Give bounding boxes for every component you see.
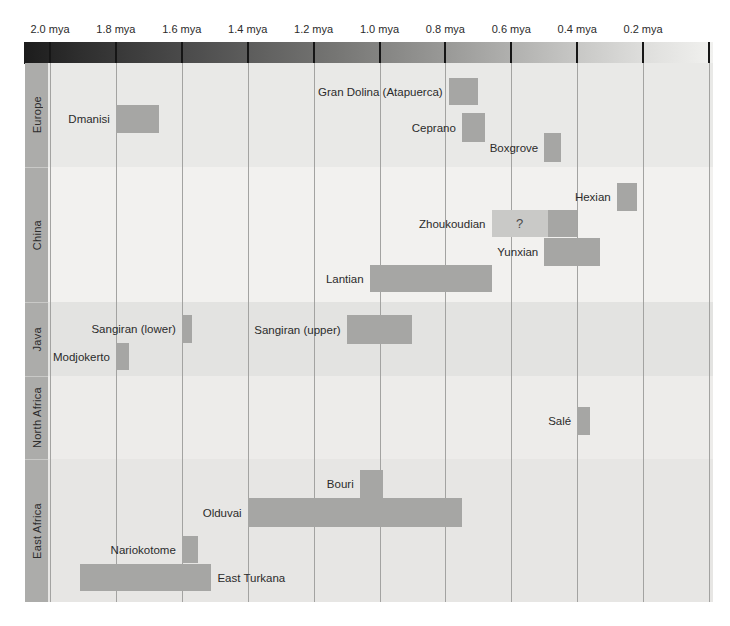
site-bar-bouri xyxy=(360,470,383,498)
region-label-china: China xyxy=(31,220,43,250)
region-sidebar-cell-java: Java xyxy=(25,302,48,376)
axis-tick-label-1-8: 1.8 mya xyxy=(96,23,135,35)
axis-tick-label-0-6: 0.6 mya xyxy=(492,23,531,35)
site-bar-lantian xyxy=(370,265,492,292)
site-label-bouri: Bouri xyxy=(327,478,354,490)
site-label-sangiran-upper: Sangiran (upper) xyxy=(254,324,340,336)
region-band-north-africa xyxy=(48,376,713,459)
region-label-java: Java xyxy=(31,327,43,351)
site-label-lantian: Lantian xyxy=(326,273,364,285)
gridline xyxy=(643,63,644,602)
axis-tick-label-1-4: 1.4 mya xyxy=(228,23,267,35)
time-gradient-bar xyxy=(24,42,713,64)
site-label-olduvai: Olduvai xyxy=(203,507,242,519)
axis-tick-mark xyxy=(181,42,183,64)
axis-tick-label-1: 1.0 mya xyxy=(360,23,399,35)
site-bar-uncertain-zhoukoudian: ? xyxy=(492,210,548,237)
site-bar-boxgrove xyxy=(544,133,560,162)
site-label-sangiran-lower: Sangiran (lower) xyxy=(91,323,175,335)
region-label-europe: Europe xyxy=(31,96,43,133)
axis-tick-mark xyxy=(49,42,51,64)
site-bar-olduvai xyxy=(248,498,462,527)
uncertainty-question-mark: ? xyxy=(516,216,523,231)
axis-tick-mark xyxy=(510,42,512,64)
hominid-fossil-sites-timeline-figure: 2.0 mya1.8 mya1.6 mya1.4 mya1.2 mya1.0 m… xyxy=(0,0,730,626)
site-label-modjokerto: Modjokerto xyxy=(53,351,110,363)
region-label-east-africa: East Africa xyxy=(31,503,43,559)
site-label-yunxian: Yunxian xyxy=(497,246,538,258)
axis-tick-mark xyxy=(444,42,446,64)
axis-tick-label-0-8: 0.8 mya xyxy=(426,23,465,35)
site-bar-gran-dolina-atapuerca xyxy=(449,78,479,105)
site-bar-sangiran-upper xyxy=(347,315,413,344)
axis-tick-label-0-4: 0.4 mya xyxy=(558,23,597,35)
site-label-sal: Salé xyxy=(548,415,571,427)
axis-tick-mark xyxy=(247,42,249,64)
site-bar-modjokerto xyxy=(116,343,129,370)
site-bar-ceprano xyxy=(462,113,485,142)
region-sidebar-cell-europe: Europe xyxy=(25,63,48,167)
gridline xyxy=(709,63,710,602)
site-label-boxgrove: Boxgrove xyxy=(490,142,539,154)
gridline xyxy=(50,63,51,602)
axis-tick-mark xyxy=(708,42,710,64)
axis-tick-mark xyxy=(115,42,117,64)
site-bar-dmanisi xyxy=(116,105,159,133)
region-sidebar-cell-china: China xyxy=(25,167,48,302)
region-sidebar-cell-north-africa: North Africa xyxy=(25,376,48,459)
site-label-dmanisi: Dmanisi xyxy=(68,113,110,125)
axis-tick-mark xyxy=(313,42,315,64)
region-label-north-africa: North Africa xyxy=(31,387,43,448)
site-bar-sal xyxy=(577,407,590,435)
site-label-east-turkana: East Turkana xyxy=(217,572,285,584)
axis-tick-mark xyxy=(642,42,644,64)
axis-tick-label-1-2: 1.2 mya xyxy=(294,23,333,35)
site-bar-zhoukoudian xyxy=(548,210,578,237)
site-label-zhoukoudian: Zhoukoudian xyxy=(419,218,486,230)
region-sidebar-cell-east-africa: East Africa xyxy=(25,459,48,602)
site-bar-sangiran-lower xyxy=(182,315,192,343)
axis-tick-label-1-6: 1.6 mya xyxy=(162,23,201,35)
site-label-gran-dolina-atapuerca: Gran Dolina (Atapuerca) xyxy=(318,86,443,98)
site-bar-hexian xyxy=(617,183,637,211)
site-bar-yunxian xyxy=(544,238,600,266)
site-label-ceprano: Ceprano xyxy=(412,122,456,134)
axis-tick-label-0-2: 0.2 mya xyxy=(624,23,663,35)
site-label-hexian: Hexian xyxy=(575,191,611,203)
site-bar-nariokotome xyxy=(182,536,198,563)
axis-tick-mark xyxy=(576,42,578,64)
axis-tick-mark xyxy=(379,42,381,64)
site-bar-east-turkana xyxy=(80,564,212,591)
axis-tick-label-2: 2.0 mya xyxy=(30,23,69,35)
site-label-nariokotome: Nariokotome xyxy=(111,544,176,556)
gridline xyxy=(577,63,578,602)
